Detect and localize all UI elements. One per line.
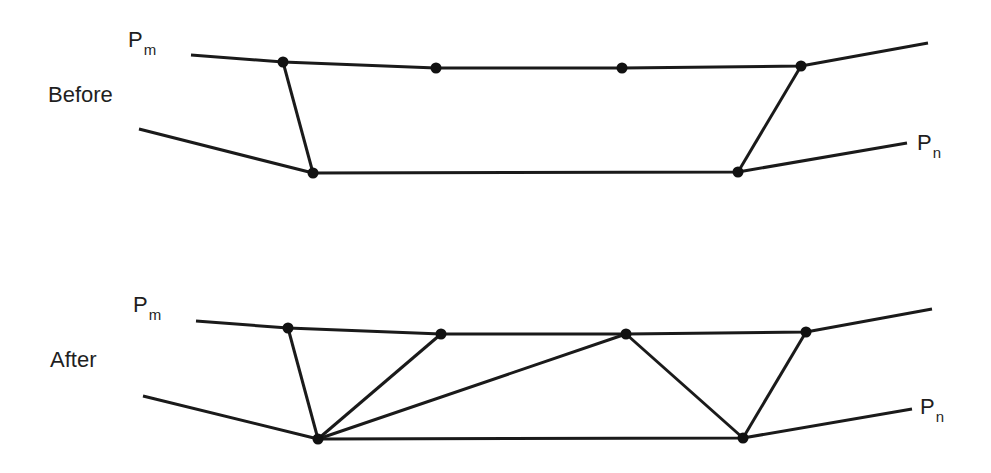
after-pm-label: Pm (133, 294, 161, 316)
before-pn-label: Pn (917, 132, 941, 154)
vertex-node (796, 61, 807, 72)
panel-before (139, 43, 928, 179)
vertex-node (308, 168, 319, 179)
triangulation-diagram (0, 0, 991, 473)
pn-sub: n (936, 408, 944, 425)
triangulation-edge (626, 334, 743, 438)
triangulation-edge (318, 334, 441, 439)
vertex-node (278, 57, 289, 68)
vertex-node (436, 329, 447, 340)
upper-polyline-pm (196, 309, 932, 334)
lower-polyline-pn (139, 129, 907, 173)
before-title: Before (48, 84, 113, 106)
pn-main: P (920, 394, 935, 419)
triangulation-edge (738, 66, 801, 172)
vertex-node (733, 167, 744, 178)
pn-sub: n (933, 144, 941, 161)
after-title: After (50, 349, 96, 371)
triangulation-edge (743, 332, 806, 438)
triangulation-edge (318, 334, 626, 439)
triangulation-edge (283, 62, 313, 173)
vertex-node (621, 329, 632, 340)
vertex-node (617, 63, 628, 74)
vertex-node (431, 63, 442, 74)
after-pn-label: Pn (920, 396, 944, 418)
vertex-node (313, 434, 324, 445)
panel-after (143, 309, 932, 445)
lower-polyline-pn (143, 396, 912, 439)
pm-main: P (133, 292, 148, 317)
before-pm-label: Pm (128, 29, 156, 51)
vertex-node (801, 327, 812, 338)
pm-main: P (128, 27, 143, 52)
pm-sub: m (149, 306, 162, 323)
vertex-node (738, 433, 749, 444)
upper-polyline-pm (191, 43, 928, 68)
pm-sub: m (144, 41, 157, 58)
triangulation-edge (288, 328, 318, 439)
pn-main: P (917, 130, 932, 155)
vertex-node (283, 323, 294, 334)
